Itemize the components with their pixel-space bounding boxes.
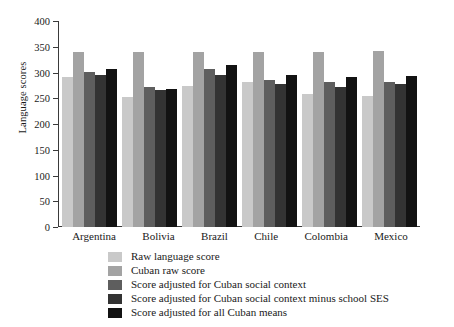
x-axis-labels: ArgentinaBoliviaBrazilChileColombiaMexic…	[59, 230, 421, 242]
legend-swatch	[108, 266, 122, 276]
legend-swatch	[108, 308, 122, 318]
bar	[242, 82, 253, 227]
bar-group	[122, 21, 177, 227]
y-tick-mark	[53, 73, 58, 74]
y-tick-mark	[53, 176, 58, 177]
y-tick-mark	[53, 150, 58, 151]
legend-item: Score adjusted for all Cuban means	[108, 306, 389, 319]
bar	[182, 86, 193, 227]
bar	[313, 52, 324, 227]
bar	[384, 82, 395, 227]
legend-item: Raw language score	[108, 250, 389, 263]
y-tick-mark	[53, 21, 58, 22]
bar	[133, 52, 144, 227]
legend-item: Score adjusted for Cuban social context …	[108, 292, 389, 305]
bar-group	[182, 21, 237, 227]
bar	[155, 90, 166, 228]
x-axis-label: Mexico	[374, 230, 408, 242]
y-tick-label: 150	[34, 144, 50, 155]
legend-swatch	[108, 280, 122, 290]
y-tick-label: 100	[34, 170, 50, 181]
y-tick-mark	[53, 201, 58, 202]
bar	[286, 75, 297, 227]
legend-label: Raw language score	[131, 250, 220, 263]
y-tick-label: 300	[34, 67, 50, 78]
bar	[62, 77, 73, 227]
bar	[395, 84, 406, 227]
bar	[373, 51, 384, 227]
bar	[335, 87, 346, 227]
legend-label: Score adjusted for Cuban social context	[131, 278, 306, 291]
legend-swatch	[108, 294, 122, 304]
y-tick-label: 0	[45, 222, 50, 233]
bar-group	[242, 21, 297, 227]
y-tick-mark	[53, 47, 58, 48]
bar-group	[362, 21, 417, 227]
x-axis-label: Brazil	[201, 230, 228, 242]
y-tick-label: 50	[40, 196, 51, 207]
legend-swatch	[108, 252, 122, 262]
y-tick-mark	[53, 227, 58, 228]
x-axis-label: Argentina	[72, 230, 116, 242]
bar	[275, 84, 286, 227]
legend-item: Score adjusted for Cuban social context	[108, 278, 389, 291]
x-axis-label: Colombia	[304, 230, 347, 242]
bar	[302, 94, 313, 227]
bar-chart-figure: Language scores 050100150200250300350400…	[0, 0, 454, 327]
bar	[122, 97, 133, 227]
bar	[84, 72, 95, 227]
x-axis-label: Chile	[254, 230, 278, 242]
bar-group	[302, 21, 357, 227]
bar	[73, 52, 84, 227]
bar	[166, 89, 177, 227]
y-tick-mark	[53, 98, 58, 99]
bar	[95, 75, 106, 227]
legend: Raw language scoreCuban raw scoreScore a…	[108, 250, 389, 319]
bar	[324, 82, 335, 227]
plot-area: 050100150200250300350400	[58, 21, 420, 227]
x-axis-label: Bolivia	[142, 230, 174, 242]
bar	[226, 65, 237, 227]
bar-groups	[59, 21, 420, 227]
legend-label: Cuban raw score	[131, 264, 205, 277]
bar	[362, 96, 373, 227]
y-tick-mark	[53, 124, 58, 125]
bar	[215, 75, 226, 227]
bar	[204, 69, 215, 227]
y-tick-label: 200	[34, 119, 50, 130]
y-tick-label: 350	[34, 41, 50, 52]
bar	[106, 69, 117, 227]
legend-label: Score adjusted for Cuban social context …	[131, 292, 389, 305]
bar	[346, 77, 357, 227]
bar-group	[62, 21, 117, 227]
legend-item: Cuban raw score	[108, 264, 389, 277]
bar	[253, 52, 264, 227]
legend-label: Score adjusted for all Cuban means	[131, 306, 287, 319]
bar	[406, 76, 417, 227]
y-tick-label: 250	[34, 93, 50, 104]
y-tick-label: 400	[34, 16, 50, 27]
bar	[264, 80, 275, 227]
y-axis-title: Language scores	[17, 38, 28, 158]
bar	[144, 87, 155, 227]
bar	[193, 52, 204, 227]
